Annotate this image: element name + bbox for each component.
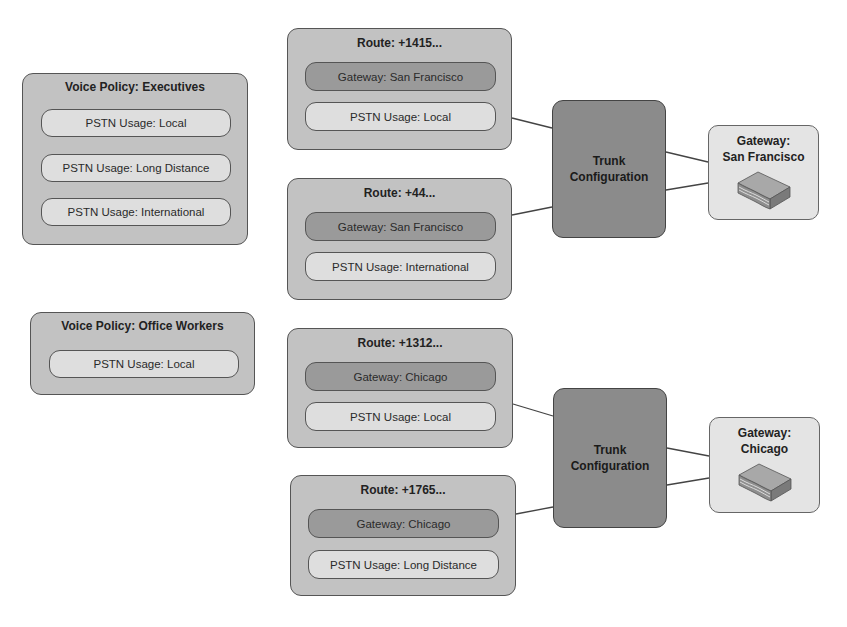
pstn-usage-pill: PSTN Usage: Local (49, 350, 239, 378)
route-1765: Route: +1765... Gateway: Chicago PSTN Us… (290, 475, 516, 596)
pstn-usage-pill: PSTN Usage: Long Distance (41, 154, 231, 182)
voice-policy-executives: Voice Policy: Executives PSTN Usage: Loc… (22, 73, 248, 245)
route-1312: Route: +1312... Gateway: Chicago PSTN Us… (287, 328, 513, 448)
route-title: Route: +1415... (288, 36, 511, 50)
gateway-pill: Gateway: San Francisco (305, 212, 496, 241)
gateway-label-line1: Gateway: (709, 133, 818, 149)
voice-policy-office-workers: Voice Policy: Office Workers PSTN Usage:… (30, 312, 255, 395)
trunk-configuration-chicago: Trunk Configuration (553, 388, 667, 528)
gateway-pill: Gateway: Chicago (305, 362, 496, 391)
route-1415: Route: +1415... Gateway: San Francisco P… (287, 28, 512, 150)
gateway-label-line2: San Francisco (709, 149, 818, 165)
connector-route2-trunk1 (512, 207, 552, 215)
trunk-label-line2: Configuration (571, 458, 650, 474)
connector-route1-trunk1 (512, 118, 552, 128)
connector-route4-trunk2 (516, 507, 553, 514)
pstn-usage-pill: PSTN Usage: Local (41, 109, 231, 137)
connector-trunk1-gateway-sf (666, 152, 708, 162)
route-title: Route: +1312... (288, 336, 512, 350)
gateway-label-line1: Gateway: (710, 425, 819, 441)
gateway-chicago: Gateway: Chicago (709, 417, 820, 513)
route-title: Route: +44... (288, 186, 511, 200)
gateway-label-line2: Chicago (710, 441, 819, 457)
pstn-usage-pill: PSTN Usage: Local (305, 402, 496, 431)
voice-policy-title: Voice Policy: Office Workers (31, 319, 254, 333)
trunk-label-line1: Trunk (571, 442, 650, 458)
gateway-pill: Gateway: San Francisco (305, 62, 496, 91)
connector-trunk2-gateway-chicago-2 (667, 478, 709, 485)
pstn-usage-pill: PSTN Usage: International (41, 198, 231, 226)
connector-trunk1-gateway-sf-2 (666, 183, 708, 190)
pstn-usage-pill: PSTN Usage: Local (305, 102, 496, 131)
gateway-device-icon (734, 169, 794, 211)
pstn-usage-pill: PSTN Usage: International (305, 252, 496, 281)
connector-route3-trunk2 (513, 404, 553, 416)
voice-policy-title: Voice Policy: Executives (23, 80, 247, 94)
trunk-configuration-sf: Trunk Configuration (552, 100, 666, 238)
trunk-label-line2: Configuration (570, 169, 649, 185)
gateway-pill: Gateway: Chicago (308, 509, 499, 538)
route-44: Route: +44... Gateway: San Francisco PST… (287, 178, 512, 300)
route-title: Route: +1765... (291, 483, 515, 497)
gateway-device-icon (735, 461, 795, 503)
connector-trunk2-gateway-chicago (667, 448, 709, 456)
gateway-san-francisco: Gateway: San Francisco (708, 125, 819, 220)
trunk-label-line1: Trunk (570, 153, 649, 169)
pstn-usage-pill: PSTN Usage: Long Distance (308, 550, 499, 579)
